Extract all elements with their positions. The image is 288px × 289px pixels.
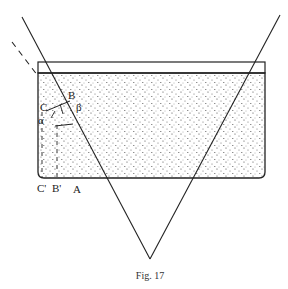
label-B-prime: B' (52, 182, 61, 194)
label-C: C (40, 101, 47, 113)
label-B: B (68, 89, 75, 101)
tank (38, 62, 265, 178)
label-beta: β (76, 101, 82, 113)
label-C-prime: C' (37, 182, 46, 194)
refraction-diagram: C B α β C' B' A Fig. 17 (0, 0, 288, 289)
figure-caption: Fig. 17 (136, 270, 164, 281)
tank-rim (38, 62, 265, 73)
dashed-ray-outside (12, 42, 38, 76)
label-A: A (73, 183, 81, 195)
label-alpha: α (38, 114, 44, 126)
